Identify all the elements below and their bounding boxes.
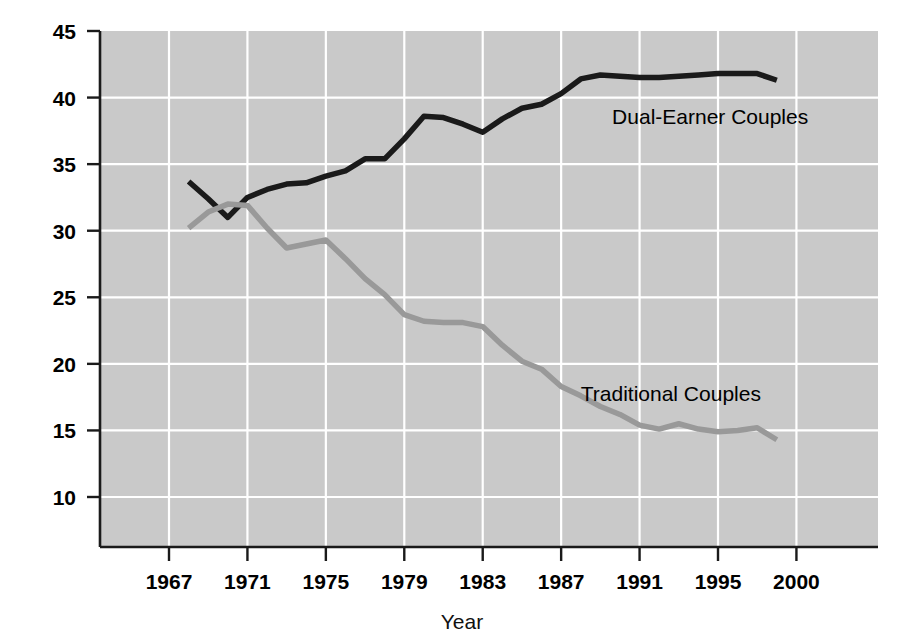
y-tick-label-15: 15 [53,419,77,442]
x-tick-label-1967: 1967 [146,570,193,593]
series-label-traditional-couples: Traditional Couples [581,382,761,405]
x-axis-tick-labels: 196719711975197919831987199119952000 [146,570,820,593]
series-label-dual-earner-couples: Dual-Earner Couples [612,105,808,128]
x-axis-title: Year [441,610,483,633]
x-tick-label-1979: 1979 [381,570,428,593]
y-tick-label-35: 35 [53,153,77,176]
x-tick-label-1971: 1971 [224,570,271,593]
y-tick-label-30: 30 [53,220,76,243]
x-tick-label-1991: 1991 [616,570,663,593]
x-tick-label-1987: 1987 [538,570,585,593]
y-tick-label-25: 25 [53,286,77,309]
y-tick-label-45: 45 [53,20,77,43]
line-chart-figure: 4540353025201510 19671971197519791983198… [0,0,924,643]
x-tick-label-1995: 1995 [695,570,742,593]
y-tick-label-20: 20 [53,353,76,376]
x-tick-label-1975: 1975 [302,570,349,593]
y-tick-label-10: 10 [53,486,76,509]
x-tick-label-2000: 2000 [773,570,820,593]
y-tick-label-40: 40 [53,87,76,110]
chart-canvas: 4540353025201510 19671971197519791983198… [0,0,924,643]
x-tick-label-1983: 1983 [459,570,506,593]
